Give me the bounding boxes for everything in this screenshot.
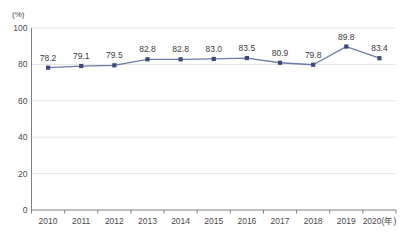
x-tick-label-9: 2019 [337,216,356,226]
x-tick-label-10: 2020(年) [363,216,397,226]
data-point-marker-7[interactable] [278,61,282,65]
y-axis-unit-label: (%) [12,10,25,19]
x-tick-label-3: 2013 [138,216,157,226]
data-point-label-4: 82.8 [172,44,189,54]
x-tick-label-8: 2018 [304,216,323,226]
data-point-label-2: 79.5 [106,50,123,60]
line-chart: 020406080100(%)2010201120122013201420152… [0,0,409,247]
y-tick-label-60: 60 [18,96,28,106]
data-point-marker-0[interactable] [46,66,50,70]
data-point-marker-8[interactable] [311,63,315,67]
data-point-marker-1[interactable] [79,64,83,68]
data-point-marker-5[interactable] [212,57,216,61]
y-tick-label-100: 100 [13,23,27,33]
data-point-label-10: 83.4 [371,43,388,53]
data-point-marker-2[interactable] [112,63,116,67]
data-point-marker-9[interactable] [344,44,348,48]
data-point-marker-4[interactable] [179,57,183,61]
chart-canvas: 020406080100(%)2010201120122013201420152… [0,0,409,247]
data-point-label-5: 83.0 [205,44,222,54]
x-tick-label-1: 2011 [72,216,91,226]
x-tick-label-0: 2010 [39,216,58,226]
data-point-label-3: 82.8 [139,44,156,54]
data-point-label-7: 80.9 [272,48,289,58]
data-point-marker-6[interactable] [245,56,249,60]
x-tick-label-5: 2015 [204,216,223,226]
y-tick-label-40: 40 [18,132,28,142]
data-point-label-1: 79.1 [73,51,90,61]
data-point-label-0: 78.2 [40,53,57,63]
y-tick-label-0: 0 [23,205,28,215]
data-point-marker-3[interactable] [145,57,149,61]
x-tick-label-2: 2012 [105,216,124,226]
x-tick-label-4: 2014 [171,216,190,226]
y-tick-label-80: 80 [18,59,28,69]
x-tick-label-7: 2017 [271,216,290,226]
data-point-label-6: 83.5 [239,43,256,53]
y-tick-label-20: 20 [18,169,28,179]
x-tick-label-6: 2016 [237,216,256,226]
data-point-label-8: 79.8 [305,50,322,60]
data-point-marker-10[interactable] [377,56,381,60]
data-point-label-9: 89.8 [338,32,355,42]
